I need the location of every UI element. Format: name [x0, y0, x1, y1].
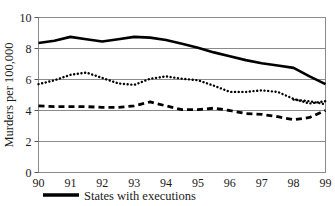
y-axis-title: Murders per 100,000 [2, 42, 16, 147]
x-tick-label: 95 [192, 176, 204, 190]
legend-label: States with executions [84, 189, 196, 203]
x-tick-label: 92 [96, 176, 108, 190]
chart-container: 0246810 90919293949596979899 Murders per… [0, 0, 335, 206]
x-tick-label: 94 [160, 176, 172, 190]
y-tick-label: 4 [26, 104, 32, 118]
x-tick-label: 98 [288, 176, 300, 190]
y-tick-label: 10 [20, 11, 32, 25]
x-tick-label: 90 [33, 176, 45, 190]
x-tick-label: 91 [64, 176, 76, 190]
y-tick-label: 2 [26, 135, 32, 149]
y-tick-label: 6 [26, 73, 32, 87]
x-tick-label: 97 [256, 176, 268, 190]
line-chart: 0246810 90919293949596979899 Murders per… [0, 0, 335, 206]
x-tick-label: 93 [128, 176, 140, 190]
y-tick-label: 8 [26, 42, 32, 56]
x-tick-label: 96 [224, 176, 236, 190]
y-tick-label: 0 [26, 166, 32, 180]
x-tick-label: 99 [320, 176, 332, 190]
